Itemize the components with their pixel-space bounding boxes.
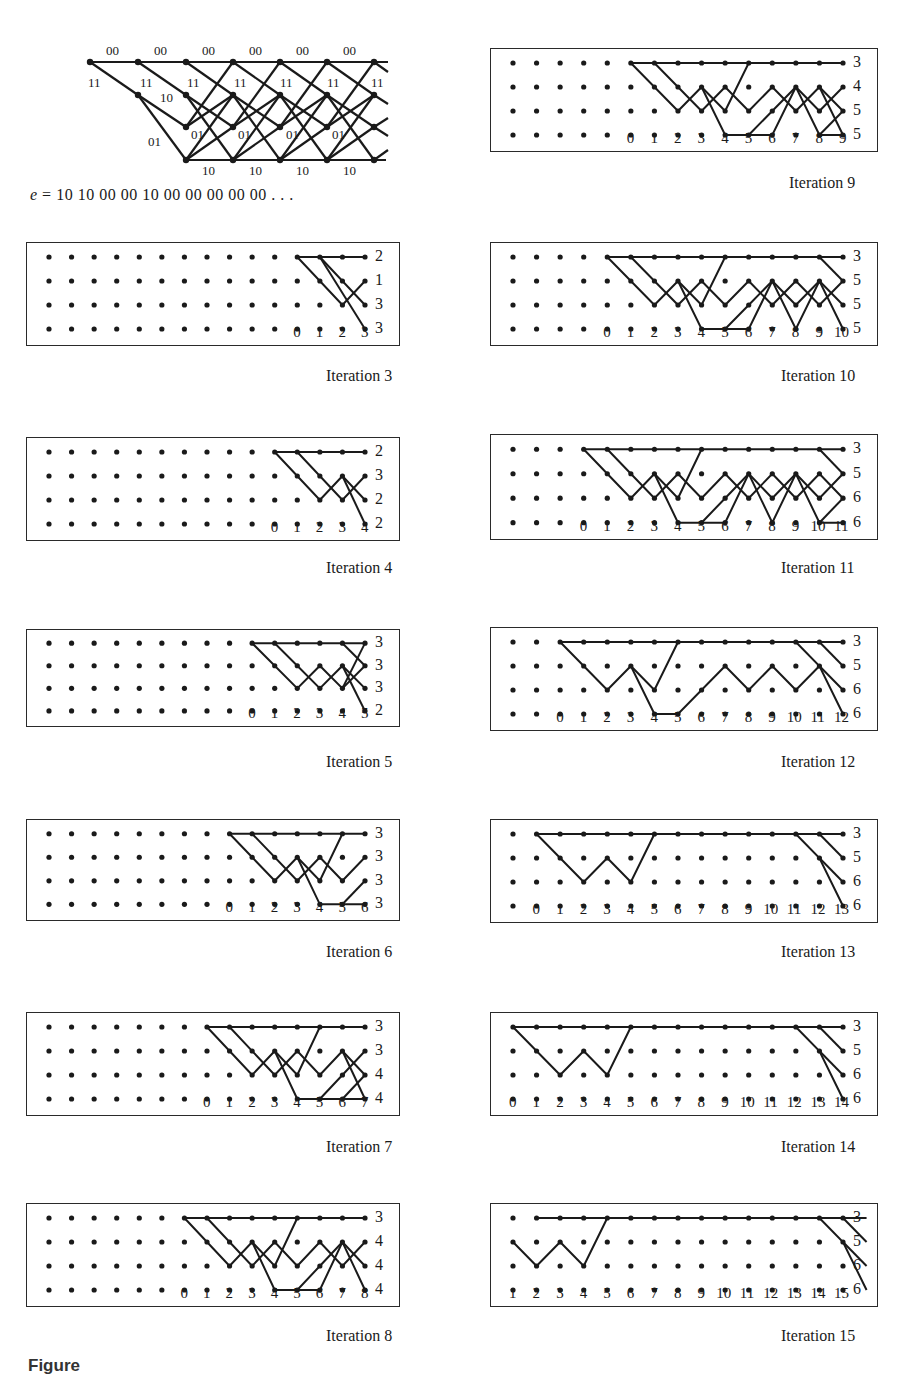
path-metric-label: 4 [375, 1089, 383, 1107]
time-tick-label: 4 [721, 130, 729, 147]
time-tick-label: 8 [698, 1094, 706, 1111]
time-tick-label: 5 [361, 705, 369, 722]
time-tick-label: 4 [650, 709, 658, 726]
time-tick-label: 12 [787, 1094, 802, 1111]
time-tick-label: 14 [810, 1285, 825, 1302]
time-tick-label: 1 [533, 1094, 541, 1111]
path-metric-label: 4 [375, 1280, 383, 1298]
time-tick-label: 8 [674, 1285, 682, 1302]
trellis-label: 11 [140, 75, 153, 91]
time-tick-label: 4 [698, 324, 706, 341]
path-metric-label: 3 [375, 894, 383, 912]
time-tick-label: 4 [338, 705, 346, 722]
time-tick-label: 7 [792, 130, 800, 147]
path-metric-label: 6 [853, 1089, 861, 1107]
trellis-label: 00 [154, 43, 167, 59]
time-tick-label: 9 [768, 709, 776, 726]
time-tick-label: 2 [316, 519, 324, 536]
time-tick-label: 10 [787, 709, 802, 726]
time-tick-label: 10 [763, 901, 778, 918]
time-tick-label: 6 [674, 901, 682, 918]
time-tick-label: 15 [834, 1285, 849, 1302]
time-tick-label: 6 [650, 1094, 658, 1111]
trellis-label: 00 [343, 43, 356, 59]
time-tick-label: 2 [650, 324, 658, 341]
time-tick-label: 12 [810, 901, 825, 918]
iteration-caption: Iteration 11 [781, 559, 855, 577]
iteration-panel-11: 012345678910113566 [490, 434, 878, 540]
time-tick-label: 3 [603, 901, 611, 918]
time-tick-label: 7 [768, 324, 776, 341]
time-tick-label: 5 [338, 899, 346, 916]
time-tick-label: 0 [603, 324, 611, 341]
path-metric-label: 5 [853, 848, 861, 866]
figure-label: Figure [28, 1356, 80, 1376]
path-metric-label: 5 [853, 1232, 861, 1250]
path-metric-label: 5 [853, 464, 861, 482]
path-metric-label: 6 [853, 513, 861, 531]
time-tick-label: 7 [698, 901, 706, 918]
path-metric-label: 6 [853, 1065, 861, 1083]
time-tick-label: 7 [650, 1285, 658, 1302]
time-tick-label: 6 [316, 1285, 324, 1302]
time-tick-label: 5 [745, 130, 753, 147]
path-metric-label: 3 [853, 1208, 861, 1226]
time-tick-label: 8 [792, 324, 800, 341]
time-tick-label: 2 [226, 1285, 234, 1302]
path-metric-label: 5 [853, 1041, 861, 1059]
time-tick-label: 4 [603, 1094, 611, 1111]
time-tick-label: 7 [361, 1094, 369, 1111]
trellis-label: 01 [286, 127, 299, 143]
trellis-label: 11 [327, 75, 340, 91]
time-tick-label: 8 [361, 1285, 369, 1302]
time-tick-label: 1 [580, 709, 588, 726]
time-tick-label: 0 [203, 1094, 211, 1111]
trellis-label: 11 [187, 75, 200, 91]
time-tick-label: 13 [810, 1094, 825, 1111]
time-tick-label: 1 [248, 899, 256, 916]
time-tick-label: 6 [627, 1285, 635, 1302]
time-tick-label: 2 [580, 901, 588, 918]
time-tick-label: 7 [745, 518, 753, 535]
path-metric-label: 5 [853, 656, 861, 674]
iteration-panel-3: 01232133 [26, 242, 400, 346]
iteration-caption: Iteration 10 [781, 367, 855, 385]
time-tick-label: 6 [361, 899, 369, 916]
path-metric-label: 4 [375, 1232, 383, 1250]
path-metric-label: 3 [375, 1208, 383, 1226]
trellis-label: 01 [332, 127, 345, 143]
trellis-label: 11 [234, 75, 247, 91]
path-metric-label: 5 [853, 295, 861, 313]
time-tick-label: 8 [768, 518, 776, 535]
time-tick-label: 2 [556, 1094, 564, 1111]
time-tick-label: 4 [674, 518, 682, 535]
time-tick-label: 8 [721, 901, 729, 918]
time-tick-label: 11 [834, 518, 848, 535]
convolutional-code-trellis: 00 00 00 00 00 00 11 11 11 11 11 11 11 1… [60, 0, 410, 180]
time-tick-label: 0 [556, 709, 564, 726]
time-tick-label: 2 [674, 130, 682, 147]
path-metric-label: 3 [375, 319, 383, 337]
path-metric-label: 5 [853, 125, 861, 143]
iteration-panel-5: 0123453332 [26, 629, 400, 727]
iteration-caption: Iteration 4 [326, 559, 392, 577]
time-tick-label: 0 [180, 1285, 188, 1302]
time-tick-label: 3 [248, 1285, 256, 1302]
iteration-caption: Iteration 7 [326, 1138, 392, 1156]
time-tick-label: 11 [810, 709, 824, 726]
trellis-label: 01 [238, 127, 251, 143]
path-metric-label: 6 [853, 1256, 861, 1274]
path-metric-label: 2 [375, 701, 383, 719]
time-tick-label: 3 [556, 1285, 564, 1302]
path-metric-label: 3 [853, 247, 861, 265]
iteration-panel-10: 0123456789103555 [490, 242, 878, 346]
path-metric-label: 4 [375, 1065, 383, 1083]
time-tick-label: 9 [698, 1285, 706, 1302]
time-tick-label: 8 [815, 130, 823, 147]
path-metric-label: 5 [853, 101, 861, 119]
time-tick-label: 1 [316, 324, 324, 341]
trellis-label: 10 [296, 163, 309, 179]
time-tick-label: 3 [698, 130, 706, 147]
time-tick-label: 2 [533, 1285, 541, 1302]
time-tick-label: 0 [533, 901, 541, 918]
